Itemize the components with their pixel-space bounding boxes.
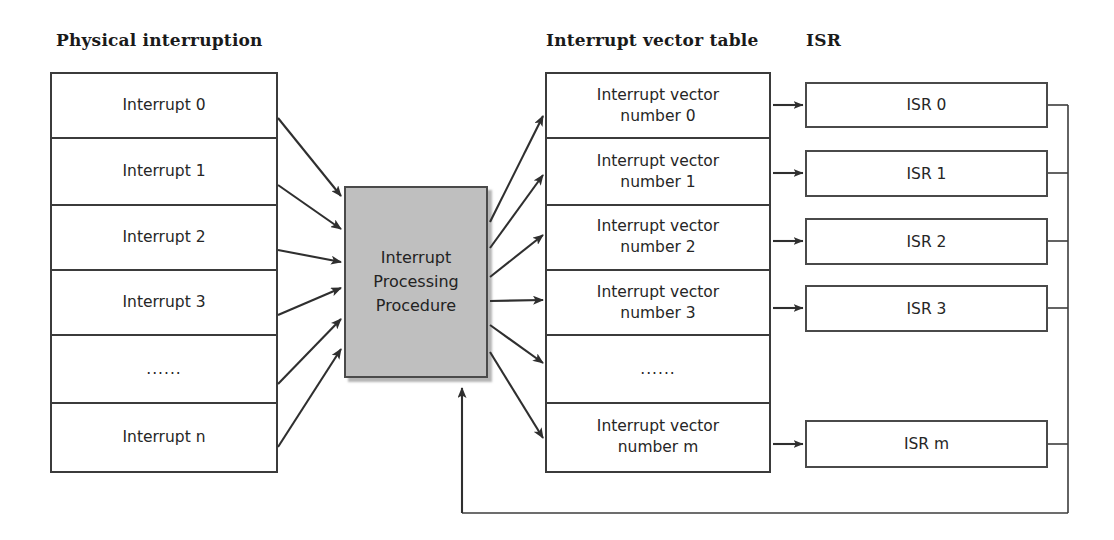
arrow-process-to-vector2	[490, 235, 543, 277]
table-row[interactable]: Interrupt vector number 2	[547, 206, 769, 271]
table-row[interactable]: Interrupt vector number 1	[547, 139, 769, 205]
arrow-ellipsis-to-process	[278, 319, 341, 384]
row-label: Interrupt vector number m	[597, 416, 719, 458]
interrupt-processing-procedure-box[interactable]: Interrupt Processing Procedure	[344, 186, 488, 378]
table-row[interactable]: Interrupt vector number 3	[547, 271, 769, 336]
column-title-physical-interruption: Physical interruption	[56, 30, 263, 50]
row-label: Interrupt 0	[122, 95, 205, 116]
isr-box-3[interactable]: ISR 3	[805, 285, 1048, 332]
isr-label: ISR 3	[907, 300, 947, 318]
arrow-process-to-vectorm	[490, 352, 543, 438]
process-label: Interrupt Processing Procedure	[373, 246, 458, 318]
isr-label: ISR 1	[907, 165, 947, 183]
row-label: Interrupt vector number 2	[597, 216, 719, 258]
isr-box-m[interactable]: ISR m	[805, 420, 1048, 468]
table-row[interactable]: Interrupt 2	[52, 206, 276, 271]
table-row[interactable]: Interrupt vector number m	[547, 404, 769, 471]
isr-box-0[interactable]: ISR 0	[805, 82, 1048, 128]
row-label: Interrupt 2	[122, 227, 205, 248]
isr-label: ISR 2	[907, 233, 947, 251]
arrow-interrupt0-to-process	[278, 118, 341, 196]
row-label: ......	[146, 359, 182, 380]
arrow-process-to-vector-ellipsis	[490, 325, 543, 363]
table-row[interactable]: Interrupt 1	[52, 139, 276, 205]
table-row[interactable]: Interrupt n	[52, 404, 276, 471]
arrow-process-to-vector3	[490, 300, 543, 301]
table-row[interactable]: Interrupt vector number 0	[547, 74, 769, 139]
row-label: Interrupt vector number 1	[597, 151, 719, 193]
diagram-canvas: Physical interruption Interrupt vector t…	[0, 0, 1114, 540]
isr-label: ISR 0	[907, 96, 947, 114]
table-row[interactable]: Interrupt 3	[52, 271, 276, 336]
arrow-process-to-vector0	[490, 116, 543, 222]
table-row[interactable]: ......	[52, 336, 276, 403]
isr-box-1[interactable]: ISR 1	[805, 150, 1048, 197]
table-row[interactable]: Interrupt 0	[52, 74, 276, 139]
row-label: ......	[640, 359, 676, 380]
row-label: Interrupt vector number 0	[597, 85, 719, 127]
row-label: Interrupt 1	[122, 161, 205, 182]
row-label: Interrupt vector number 3	[597, 282, 719, 324]
arrow-interruptn-to-process	[278, 349, 341, 447]
column-title-isr: ISR	[806, 30, 841, 50]
column-title-interrupt-vector-table: Interrupt vector table	[546, 30, 758, 50]
arrow-interrupt2-to-process	[278, 250, 341, 262]
arrow-process-to-vector1	[490, 175, 543, 248]
arrow-interrupt3-to-process	[278, 288, 341, 315]
isr-label: ISR m	[904, 435, 949, 453]
arrow-interrupt1-to-process	[278, 185, 341, 229]
physical-interruption-table: Interrupt 0 Interrupt 1 Interrupt 2 Inte…	[50, 72, 278, 473]
table-row[interactable]: ......	[547, 336, 769, 403]
isr-box-2[interactable]: ISR 2	[805, 218, 1048, 265]
row-label: Interrupt 3	[122, 292, 205, 313]
row-label: Interrupt n	[123, 427, 206, 448]
interrupt-vector-table: Interrupt vector number 0 Interrupt vect…	[545, 72, 771, 473]
